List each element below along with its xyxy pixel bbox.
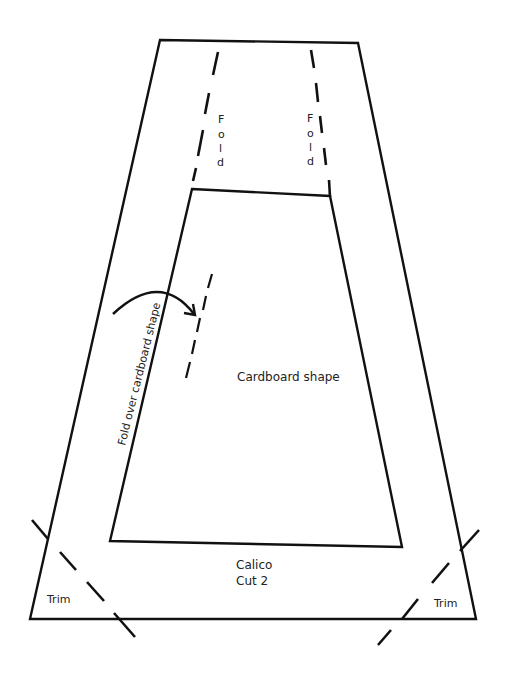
trim-label-left: Trim (46, 593, 70, 606)
fold-letter: l (309, 141, 312, 154)
dash-segment (316, 83, 318, 102)
dash-segment (32, 520, 48, 539)
fold-label-left: F o l d (217, 113, 225, 169)
fold-letter: o (307, 127, 314, 140)
pattern-svg: F o l d F o l d Fold over cardboard shap… (0, 0, 508, 674)
fold-edge-dashed-line (186, 274, 212, 378)
pattern-diagram: F o l d F o l d Fold over cardboard shap… (0, 0, 508, 674)
fold-letter: F (307, 112, 313, 125)
dash-segment (402, 599, 418, 619)
trim-label-right: Trim (433, 597, 457, 610)
dash-segment (87, 582, 104, 601)
dash-segment (192, 340, 195, 354)
dash-segment (311, 50, 314, 68)
fold-line-left (193, 52, 218, 181)
dash-segment (186, 362, 190, 378)
fold-letter: d (217, 156, 224, 169)
dash-segment (205, 93, 209, 114)
fold-letter: d (307, 155, 314, 168)
dash-segment (320, 116, 322, 133)
fold-line-right (311, 50, 330, 197)
dash-segment (329, 180, 330, 197)
cardboard-label: Cardboard shape (237, 370, 340, 384)
dash-segment (60, 552, 76, 570)
fold-letter: o (218, 128, 225, 141)
dash-segment (432, 563, 449, 583)
dash-segment (378, 630, 391, 645)
dash-segment (193, 168, 196, 181)
cardboard-outline (110, 189, 402, 547)
dash-segment (114, 613, 135, 637)
dash-segment (324, 148, 326, 165)
dash-segment (213, 52, 218, 75)
dash-segment (208, 274, 212, 288)
fold-letter: l (219, 142, 222, 155)
calico-outline (30, 40, 476, 619)
material-label: Calico (236, 558, 272, 572)
dash-segment (197, 318, 200, 332)
dash-segment (198, 130, 203, 156)
dash-segment (460, 530, 479, 551)
fold-letter: F (218, 113, 224, 126)
cut-count-label: Cut 2 (236, 574, 268, 588)
fold-label-right: F o l d (307, 112, 314, 168)
fold-over-label: Fold over cardboard shape (115, 301, 163, 447)
dash-segment (203, 296, 206, 310)
